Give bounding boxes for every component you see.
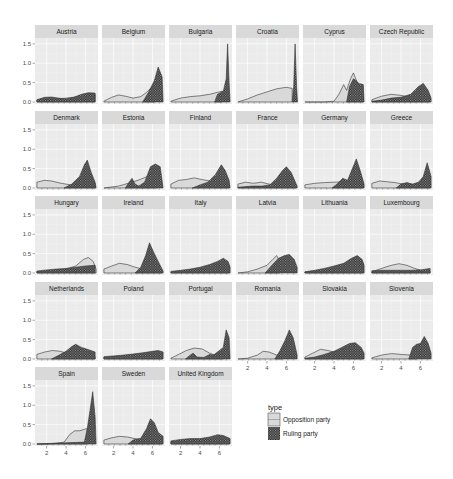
- panel-ireland: Ireland: [102, 196, 165, 275]
- legend: type Opposition party Ruling party: [268, 403, 331, 440]
- panel-latvia: Latvia: [236, 196, 299, 275]
- y-tick-label: 1.0: [23, 402, 32, 408]
- x-tick-label: 2: [45, 450, 49, 456]
- y-tick-label: 0.0: [23, 441, 32, 447]
- facet-label: Slovenia: [389, 285, 414, 292]
- facet-label: Greece: [391, 114, 413, 121]
- y-tick-label: 0.0: [23, 99, 32, 105]
- facet-label: Croatia: [257, 28, 278, 35]
- x-tick-label: 6: [419, 365, 423, 371]
- panel-czech-republic: Czech Republic: [370, 25, 433, 104]
- facet-label: Denmark: [53, 114, 80, 121]
- panel-italy: Italy: [169, 196, 232, 275]
- facet-label: Finland: [190, 114, 212, 121]
- y-tick-label: 0.5: [23, 251, 32, 257]
- facet-label: Bulgaria: [189, 28, 213, 36]
- x-tick-label: 4: [332, 365, 336, 371]
- y-tick-label: 1.0: [23, 146, 32, 152]
- y-tick-label: 1.5: [23, 212, 32, 218]
- facet-label: Luxembourg: [383, 199, 420, 207]
- facet-label: Slovakia: [322, 285, 347, 292]
- panel-bulgaria: Bulgaria: [169, 25, 232, 104]
- legend-label-opposition: Opposition party: [283, 416, 331, 424]
- y-tick-label: 0.5: [23, 80, 32, 86]
- y-tick-label: 1.5: [23, 383, 32, 389]
- x-tick-label: 4: [131, 450, 135, 456]
- panel-netherlands: Netherlands0.00.51.01.5: [23, 282, 98, 362]
- y-tick-label: 0.5: [23, 166, 32, 172]
- y-tick-label: 1.0: [23, 60, 32, 66]
- facet-label: United Kingdom: [177, 370, 223, 378]
- panel-greece: Greece: [370, 111, 433, 190]
- panel-belgium: Belgium: [102, 25, 165, 104]
- y-tick-label: 1.5: [23, 41, 32, 47]
- panel-finland: Finland: [169, 111, 232, 190]
- panel-slovakia: Slovakia246: [303, 282, 366, 371]
- x-tick-label: 4: [399, 365, 403, 371]
- facet-label: Spain: [58, 370, 75, 378]
- x-tick-label: 2: [313, 365, 317, 371]
- x-tick-label: 2: [246, 365, 250, 371]
- facet-label: Portugal: [188, 285, 213, 293]
- panel-spain: Spain0.00.51.01.5246: [23, 367, 98, 456]
- x-tick-label: 2: [179, 450, 183, 456]
- facet-label: Latvia: [259, 199, 277, 206]
- x-tick-label: 4: [64, 450, 68, 456]
- x-tick-label: 6: [218, 450, 222, 456]
- panel-lithuania: Lithuania: [303, 196, 366, 275]
- facet-label: Poland: [123, 285, 144, 292]
- legend-key-ruling: [268, 427, 280, 440]
- panel-slovenia: Slovenia246: [370, 282, 433, 371]
- x-tick-label: 4: [265, 365, 269, 371]
- x-tick-label: 6: [285, 365, 289, 371]
- panel-hungary: Hungary0.00.51.01.5: [23, 196, 98, 276]
- facet-label: Italy: [195, 199, 208, 207]
- facet-label: Ireland: [124, 199, 144, 206]
- facet-label: Cyprus: [324, 28, 345, 36]
- y-tick-label: 0.5: [23, 337, 32, 343]
- facet-label: Austria: [56, 28, 77, 35]
- x-tick-label: 6: [84, 450, 88, 456]
- facet-label: Germany: [321, 114, 348, 122]
- facet-label: Lithuania: [321, 199, 348, 206]
- panel-austria: Austria0.00.51.01.5: [23, 25, 98, 105]
- x-tick-label: 4: [198, 450, 202, 456]
- panel-united-kingdom: United Kingdom246: [169, 367, 232, 456]
- legend-title: type: [268, 403, 282, 412]
- y-tick-label: 0.5: [23, 422, 32, 428]
- x-tick-label: 2: [112, 450, 116, 456]
- x-tick-label: 6: [151, 450, 155, 456]
- y-tick-label: 1.0: [23, 317, 32, 323]
- panel-poland: Poland: [102, 282, 165, 361]
- panel-croatia: Croatia: [236, 25, 299, 104]
- panel-portugal: Portugal: [169, 282, 232, 361]
- panel-cyprus: Cyprus: [303, 25, 366, 104]
- panel-sweden: Sweden246: [102, 367, 165, 456]
- x-tick-label: 2: [380, 365, 384, 371]
- density-chart: Austria0.00.51.01.5BelgiumBulgariaCroati…: [0, 0, 453, 479]
- facet-label: Belgium: [122, 28, 145, 36]
- facet-label: Sweden: [122, 370, 146, 377]
- panel-germany: Germany: [303, 111, 366, 190]
- y-tick-label: 0.0: [23, 185, 32, 191]
- x-tick-label: 6: [352, 365, 356, 371]
- facet-label: France: [257, 114, 278, 121]
- y-tick-label: 1.0: [23, 231, 32, 237]
- panel-estonia: Estonia: [102, 111, 165, 190]
- facet-label: Estonia: [123, 114, 145, 121]
- y-tick-label: 0.0: [23, 270, 32, 276]
- facet-label: Czech Republic: [379, 28, 425, 36]
- legend-label-ruling: Ruling party: [283, 430, 318, 438]
- facet-label: Hungary: [54, 199, 79, 207]
- y-tick-label: 1.5: [23, 127, 32, 133]
- facet-panels: Austria0.00.51.01.5BelgiumBulgariaCroati…: [23, 25, 433, 456]
- panel-luxembourg: Luxembourg: [370, 196, 433, 275]
- panel-romania: Romania246: [236, 282, 299, 371]
- panel-denmark: Denmark0.00.51.01.5: [23, 111, 98, 191]
- panel-france: France: [236, 111, 299, 190]
- y-tick-label: 1.5: [23, 298, 32, 304]
- y-tick-label: 0.0: [23, 356, 32, 362]
- facet-label: Netherlands: [49, 285, 85, 292]
- facet-label: Romania: [254, 285, 280, 292]
